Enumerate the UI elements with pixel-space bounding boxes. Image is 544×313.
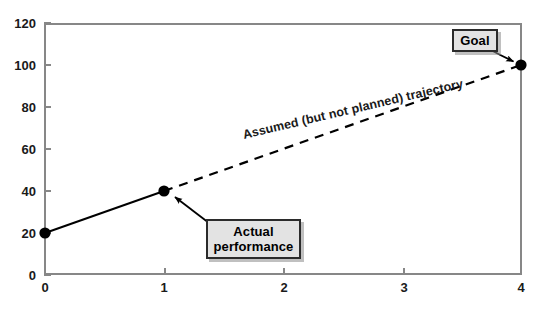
goal-callout-box: Goal: [452, 29, 498, 52]
actual-performance-callout-label: Actual performance: [214, 224, 294, 254]
series-assumed-trajectory-line: [164, 65, 521, 191]
data-point-marker-0-20: [39, 227, 50, 238]
goal-callout-label: Goal: [460, 33, 489, 48]
actual-performance-arrow: [175, 197, 209, 223]
series-actual-performance-line: [45, 191, 164, 233]
actual-performance-callout-box: Actual performance: [206, 219, 301, 259]
data-point-marker-1-40: [158, 185, 169, 196]
data-point-marker-4-100: [515, 59, 526, 70]
actual-performance-callout-line-2: performance: [214, 239, 294, 254]
actual-performance-callout-line-1: Actual: [233, 224, 273, 239]
chart-container: 0 20 40 60 80 100 120 0 1 2 3 4: [0, 0, 544, 313]
